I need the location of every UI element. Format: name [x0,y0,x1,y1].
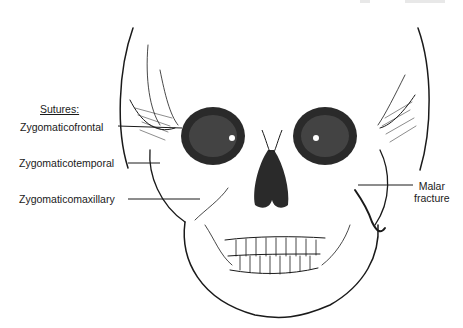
malar-line2: fracture [414,192,450,204]
label-zygomaticotemporal: Zygomaticotemporal [19,157,114,169]
sutures-heading: Sutures: [40,103,79,115]
label-zygomaticomaxillary: Zygomaticomaxillary [19,193,115,205]
nasal-cavity [254,150,288,208]
malar-line1: Malar [414,180,450,192]
label-malar-fracture: Malar fracture [414,180,450,204]
leader-zygomaticofrontal [118,126,182,128]
label-zygomaticofrontal: Zygomaticofrontal [20,121,103,133]
